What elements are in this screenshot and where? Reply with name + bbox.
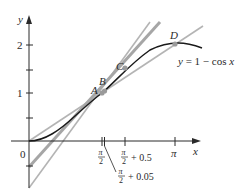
x-tick-label-pi-half: π 2 (98, 148, 105, 166)
svg-text:2: 2 (99, 157, 103, 166)
point-b-marker (102, 88, 107, 93)
leader-line-pi-half-plus-005 (105, 146, 117, 172)
y-axis-arrow-icon (26, 15, 32, 24)
y-axis-label: y (17, 13, 23, 25)
label-point-c: C (116, 60, 124, 72)
svg-text:+ 0.5: + 0.5 (131, 152, 152, 163)
x-tick-label-pi: π (171, 147, 177, 159)
x-tick-label-pi-half-plus-005: π 2 + 0.05 (118, 167, 154, 185)
y-tick-label-2: 2 (17, 39, 23, 51)
secant-line-ac (29, 22, 150, 188)
label-point-b: B (99, 75, 106, 87)
x-tick-label-pi-half-plus-05: π 2 + 0.5 (121, 148, 152, 166)
svg-text:π: π (122, 148, 127, 157)
point-d-marker (172, 41, 177, 46)
diagram-canvas: A B C D y x 2 1 0 π 2 π 2 + 0.5 π π 2 + … (0, 0, 249, 194)
x-axis-arrow-icon (192, 138, 201, 144)
svg-text:2: 2 (122, 157, 126, 166)
svg-text:2: 2 (119, 176, 123, 185)
label-point-d: D (169, 29, 178, 41)
svg-text:+ 0.05: + 0.05 (128, 171, 154, 182)
svg-text:π: π (119, 167, 124, 176)
curve-one-minus-cos (29, 43, 202, 141)
y-tick-label-1: 1 (17, 87, 23, 99)
origin-label: 0 (20, 148, 26, 160)
x-axis-label: x (192, 145, 198, 157)
svg-text:π: π (99, 148, 104, 157)
curve-label: y = 1 − cos x (177, 55, 234, 67)
label-point-a: A (90, 84, 98, 96)
